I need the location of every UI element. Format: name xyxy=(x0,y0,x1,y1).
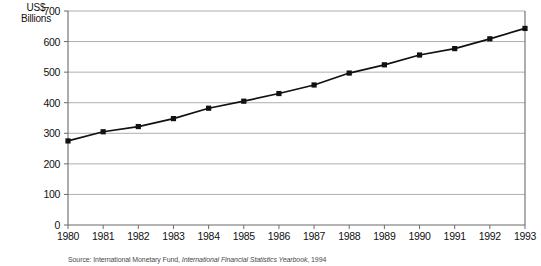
data-point-marker xyxy=(522,26,527,31)
data-point-marker xyxy=(65,138,70,143)
data-point-marker xyxy=(452,46,457,51)
data-point-marker xyxy=(101,129,106,134)
source-publication: International Financial Statistics Yearb… xyxy=(182,256,308,263)
data-point-marker xyxy=(382,62,387,67)
source-prefix: Source: International Monetary Fund, xyxy=(68,256,182,263)
data-point-marker xyxy=(171,116,176,121)
data-point-marker xyxy=(347,70,352,75)
data-point-marker xyxy=(136,124,141,129)
data-point-marker xyxy=(206,106,211,111)
data-point-marker xyxy=(276,91,281,96)
source-suffix: , 1994 xyxy=(307,256,326,263)
source-note: Source: International Monetary Fund, Int… xyxy=(68,256,326,264)
data-point-marker xyxy=(311,82,316,87)
data-point-marker xyxy=(241,99,246,104)
data-point-marker xyxy=(487,36,492,41)
data-point-marker xyxy=(417,52,422,57)
